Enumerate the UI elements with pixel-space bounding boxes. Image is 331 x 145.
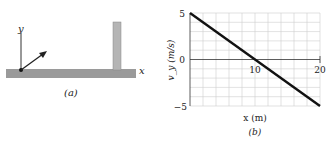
- wall: [113, 22, 121, 70]
- panel-b: 5 0 −5 10 20 v_y (m/s) x (m) (b): [166, 9, 326, 137]
- y-tick-5: 5: [179, 9, 185, 19]
- x-axis-title: x (m): [243, 113, 267, 123]
- x-axis-label: x: [139, 65, 145, 76]
- figure: y x (a) 5 0 −5 10 20 v_y (m/s) x (m): [0, 0, 331, 145]
- y-axis-title: v_y (m/s): [166, 39, 177, 80]
- y-axis-label: y: [17, 23, 24, 34]
- velocity-arrow: [21, 54, 43, 70]
- caption-a: (a): [64, 87, 78, 98]
- floor: [6, 69, 136, 78]
- y-tick-0: 0: [179, 55, 185, 65]
- panel-a: y x (a): [6, 22, 145, 98]
- y-tick-neg5: −5: [174, 102, 188, 112]
- caption-b: (b): [249, 127, 262, 137]
- x-tick-10: 10: [249, 65, 261, 75]
- x-tick-20: 20: [314, 65, 326, 75]
- arrow-head-icon: [39, 51, 47, 58]
